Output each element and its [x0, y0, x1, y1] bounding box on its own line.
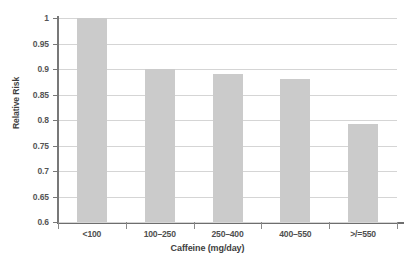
y-tick-label: 0.9	[37, 64, 49, 74]
x-tick-label: 400–550	[279, 229, 311, 239]
grid-line	[58, 18, 397, 19]
y-tick-label: 0.8	[37, 115, 49, 125]
bar	[145, 69, 175, 222]
y-tick-label: 0.65	[33, 192, 49, 202]
y-tick-mark	[53, 69, 59, 70]
y-tick-label: 0.6	[37, 217, 49, 227]
y-tick-label: 1	[44, 13, 49, 23]
y-tick-mark	[53, 120, 59, 121]
y-tick-label: 0.7	[37, 166, 49, 176]
x-tick-mark	[329, 222, 330, 229]
y-tick-label: 0.95	[33, 39, 49, 49]
y-tick-label: 0.85	[33, 90, 49, 100]
bar	[77, 18, 107, 222]
bar	[348, 124, 378, 222]
y-tick-label: 0.75	[33, 141, 49, 151]
grid-line	[58, 69, 397, 70]
y-tick-mark	[53, 95, 59, 96]
x-tick-mark	[194, 222, 195, 229]
x-axis-title: Caffeine (mg/day)	[0, 243, 415, 253]
x-tick-label: 250–400	[211, 229, 243, 239]
bar	[213, 74, 243, 222]
x-tick-label: >/=550	[350, 229, 376, 239]
bar-chart-figure: 0.60.650.70.750.80.850.90.951 Relative R…	[0, 0, 415, 267]
y-tick-mark	[53, 146, 59, 147]
grid-line	[58, 222, 397, 223]
y-tick-mark	[53, 18, 59, 19]
x-tick-label: 100–250	[144, 229, 176, 239]
bar	[280, 79, 310, 222]
x-tick-mark	[261, 222, 262, 229]
y-tick-mark	[53, 44, 59, 45]
y-axis-title: Relative Risk	[11, 43, 21, 163]
grid-line	[58, 44, 397, 45]
plot-area: 0.60.650.70.750.80.850.90.951	[58, 18, 397, 222]
x-tick-mark	[126, 222, 127, 229]
y-tick-mark	[53, 197, 59, 198]
x-tick-mark	[58, 222, 59, 229]
x-tick-mark	[397, 222, 398, 229]
x-tick-label: <100	[83, 229, 102, 239]
y-tick-mark	[53, 171, 59, 172]
